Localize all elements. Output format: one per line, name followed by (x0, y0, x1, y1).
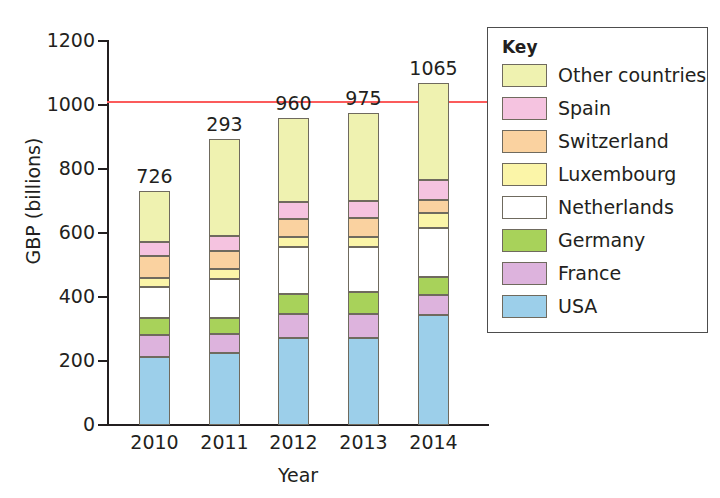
bar-segment-2013-other-countries[interactable] (348, 113, 379, 201)
bar-segment-2014-luxembourg[interactable] (418, 213, 449, 228)
y-tick-mark-400 (98, 296, 107, 298)
bar-segment-2013-netherlands[interactable] (348, 247, 379, 292)
bar-total-label-2013: 975 (327, 87, 401, 109)
bar-segment-2013-usa[interactable] (348, 338, 379, 425)
x-tick-label-2014: 2014 (397, 431, 471, 453)
y-tick-mark-0 (98, 424, 107, 426)
bar-segment-2014-germany[interactable] (418, 277, 449, 295)
y-tick-label-0: 0 (37, 415, 95, 434)
y-tick-mark-800 (98, 168, 107, 170)
y-tick-mark-200 (98, 360, 107, 362)
bar-segment-2011-spain[interactable] (209, 236, 240, 251)
bar-segment-2012-luxembourg[interactable] (278, 237, 309, 247)
y-tick-label-400: 400 (37, 287, 95, 306)
legend-swatch-other-countries (502, 64, 547, 87)
bar-segment-2014-netherlands[interactable] (418, 228, 449, 277)
legend-label-other-countries: Other countries (558, 64, 706, 86)
legend-swatch-luxembourg (502, 163, 547, 186)
y-tick-mark-1000 (98, 104, 107, 106)
y-axis-line (107, 40, 109, 426)
bar-segment-2011-other-countries[interactable] (209, 139, 240, 236)
legend-label-netherlands: Netherlands (558, 196, 674, 218)
bar-segment-2012-usa[interactable] (278, 338, 309, 425)
legend-item-usa[interactable]: USA (502, 292, 597, 320)
bar-segment-2010-germany[interactable] (139, 318, 170, 335)
legend-label-usa: USA (558, 295, 597, 317)
legend-item-spain[interactable]: Spain (502, 94, 611, 122)
bar-segment-2014-usa[interactable] (418, 315, 449, 425)
bar-segment-2010-usa[interactable] (139, 357, 170, 425)
legend-label-france: France (558, 262, 621, 284)
bar-segment-2013-switzerland[interactable] (348, 218, 379, 237)
legend-item-other-countries[interactable]: Other countries (502, 61, 706, 89)
bar-segment-2010-spain[interactable] (139, 242, 170, 256)
bar-segment-2014-france[interactable] (418, 295, 449, 315)
bar-segment-2012-netherlands[interactable] (278, 247, 309, 294)
bar-total-label-2010: 726 (118, 165, 192, 187)
bar-segment-2011-france[interactable] (209, 334, 240, 353)
legend-item-germany[interactable]: Germany (502, 226, 645, 254)
legend-item-switzerland[interactable]: Switzerland (502, 127, 669, 155)
legend-label-germany: Germany (558, 229, 645, 251)
legend-swatch-france (502, 262, 547, 285)
legend-swatch-switzerland (502, 130, 547, 153)
legend-swatch-netherlands (502, 196, 547, 219)
legend-label-switzerland: Switzerland (558, 130, 669, 152)
legend-label-spain: Spain (558, 97, 611, 119)
legend-panel: Key Other countriesSpainSwitzerlandLuxem… (487, 27, 708, 333)
bar-segment-2013-germany[interactable] (348, 292, 379, 314)
bar-total-label-2014: 1065 (397, 57, 471, 79)
legend-swatch-usa (502, 295, 547, 318)
bar-segment-2012-other-countries[interactable] (278, 118, 309, 202)
bar-segment-2010-other-countries[interactable] (139, 191, 170, 242)
bar-segment-2011-switzerland[interactable] (209, 251, 240, 269)
bar-segment-2010-netherlands[interactable] (139, 287, 170, 318)
bar-total-label-2011: 293 (188, 113, 262, 135)
bar-segment-2012-germany[interactable] (278, 294, 309, 314)
legend-swatch-spain (502, 97, 547, 120)
bar-segment-2010-luxembourg[interactable] (139, 278, 170, 287)
bar-segment-2014-spain[interactable] (418, 180, 449, 200)
y-tick-label-600: 600 (37, 223, 95, 242)
legend-item-luxembourg[interactable]: Luxembourg (502, 160, 676, 188)
bar-segment-2010-switzerland[interactable] (139, 256, 170, 278)
bar-segment-2011-germany[interactable] (209, 318, 240, 334)
y-tick-label-200: 200 (37, 351, 95, 370)
y-tick-label-1000: 1000 (37, 95, 95, 114)
x-tick-label-2013: 2013 (327, 431, 401, 453)
bar-segment-2012-switzerland[interactable] (278, 219, 309, 237)
bar-segment-2013-spain[interactable] (348, 201, 379, 218)
y-tick-mark-1200 (98, 40, 107, 42)
legend-label-luxembourg: Luxembourg (558, 163, 676, 185)
legend-swatch-germany (502, 229, 547, 252)
legend-item-netherlands[interactable]: Netherlands (502, 193, 674, 221)
y-tick-label-1200: 1200 (37, 31, 95, 50)
bar-segment-2014-switzerland[interactable] (418, 200, 449, 213)
bar-segment-2010-france[interactable] (139, 335, 170, 357)
legend-title: Key (502, 37, 538, 57)
bar-segment-2011-netherlands[interactable] (209, 279, 240, 318)
legend-item-france[interactable]: France (502, 259, 621, 287)
bar-segment-2012-spain[interactable] (278, 202, 309, 219)
y-axis-title: GBP (billions) (22, 106, 44, 296)
x-tick-label-2011: 2011 (188, 431, 262, 453)
bar-segment-2011-luxembourg[interactable] (209, 269, 240, 279)
bar-segment-2011-usa[interactable] (209, 353, 240, 425)
bar-segment-2013-luxembourg[interactable] (348, 237, 379, 248)
x-tick-label-2012: 2012 (257, 431, 331, 453)
stacked-bar-chart: 020040060080010001200 GBP (billions) 201… (0, 0, 720, 498)
bar-segment-2014-other-countries[interactable] (418, 83, 449, 180)
bar-segment-2012-france[interactable] (278, 314, 309, 338)
y-tick-label-800: 800 (37, 159, 95, 178)
y-tick-mark-600 (98, 232, 107, 234)
bar-segment-2013-france[interactable] (348, 314, 379, 338)
x-axis-title: Year (107, 464, 489, 486)
x-tick-label-2010: 2010 (118, 431, 192, 453)
